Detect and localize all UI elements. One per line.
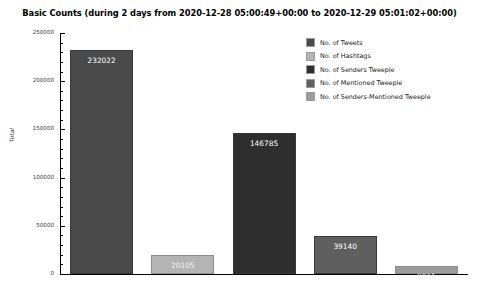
y-tick-label: 250000 [33, 29, 54, 35]
legend-item[interactable]: No. of Mentioned Tweeple [306, 77, 478, 91]
legend-swatch-icon [306, 52, 315, 61]
bar: 232022 [70, 50, 133, 274]
y-tick-label: 100000 [33, 174, 54, 180]
bar-value-label: 39140 [315, 242, 376, 251]
legend-swatch-icon [306, 92, 315, 101]
bar-value-label: 146785 [234, 139, 295, 148]
bar: 39140 [314, 236, 377, 274]
chart-legend: No. of TweetsNo. of HashtagsNo. of Sende… [306, 36, 478, 104]
y-tick-label: 0 [50, 270, 54, 276]
legend-swatch-icon [306, 79, 315, 88]
legend-item-label: No. of Senders Tweeple [320, 66, 395, 74]
legend-item[interactable]: No. of Senders Tweeple [306, 63, 478, 77]
legend-item-label: No. of Hashtags [320, 52, 371, 60]
legend-item[interactable]: No. of Tweets [306, 36, 478, 50]
legend-item-label: No. of Mentioned Tweeple [320, 79, 402, 87]
legend-swatch-icon [306, 38, 315, 47]
y-tick-mark [61, 274, 65, 275]
y-tick-label: 50000 [36, 222, 54, 228]
y-axis-ticks: 050000100000150000200000250000 [0, 0, 61, 285]
y-tick-label: 150000 [33, 125, 54, 131]
bar: 20105 [151, 255, 214, 274]
legend-item[interactable]: No. of Senders-Mentioned Tweeple [306, 90, 478, 104]
legend-item[interactable]: No. of Hashtags [306, 50, 478, 64]
bar-value-label: 20105 [152, 261, 213, 270]
chart-title: Basic Counts (during 2 days from 2020-12… [0, 8, 479, 18]
legend-item-label: No. of Tweets [320, 39, 363, 47]
legend-item-label: No. of Senders-Mentioned Tweeple [320, 93, 431, 101]
bar: 8011 [395, 266, 458, 274]
bar: 146785 [233, 133, 296, 275]
bar-chart-figure: Basic Counts (during 2 days from 2020-12… [0, 0, 479, 285]
legend-swatch-icon [306, 65, 315, 74]
bar-value-label: 232022 [71, 56, 132, 65]
bar-value-label: 8011 [396, 272, 457, 281]
y-tick-label: 200000 [33, 77, 54, 83]
